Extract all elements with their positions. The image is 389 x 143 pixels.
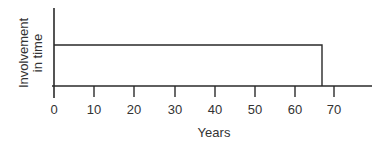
svg-text:0: 0	[50, 102, 57, 117]
svg-text:20: 20	[127, 102, 141, 117]
svg-text:40: 40	[208, 102, 222, 117]
x-tick-labels: 0 10 20 30 40 50 60 70	[50, 102, 341, 117]
y-axis-title-line2: in time	[30, 34, 45, 72]
svg-text:10: 10	[87, 102, 101, 117]
svg-text:70: 70	[327, 102, 341, 117]
svg-text:30: 30	[168, 102, 182, 117]
y-axis-title-line1: Involvement	[16, 18, 31, 88]
chart: 0 10 20 30 40 50 60 70 Years Involvement…	[0, 0, 389, 143]
x-axis-title: Years	[198, 125, 231, 140]
involvement-step-line	[54, 45, 322, 86]
svg-text:60: 60	[288, 102, 302, 117]
svg-text:50: 50	[248, 102, 262, 117]
x-ticks	[94, 86, 334, 97]
